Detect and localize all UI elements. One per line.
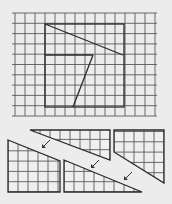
- dissection-diagram: [0, 0, 172, 204]
